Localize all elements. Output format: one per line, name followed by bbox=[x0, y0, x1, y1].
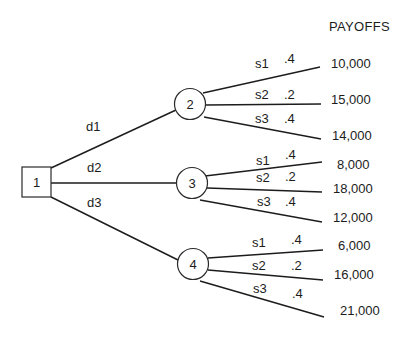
state-label-n3-s2: s2 bbox=[256, 170, 270, 185]
state-label-n4-s2: s2 bbox=[252, 258, 266, 273]
prob-label-n4-s2: .2 bbox=[291, 258, 302, 273]
state-label-n2-s3: s3 bbox=[255, 111, 269, 126]
payoff-n2-s2: 15,000 bbox=[331, 92, 371, 107]
state-label-n4-s1: s1 bbox=[252, 235, 266, 250]
prob-label-n2-s1: .4 bbox=[284, 51, 295, 66]
decision-edge-d3 bbox=[51, 197, 178, 260]
payoff-n4-s1: 6,000 bbox=[338, 238, 371, 253]
state-label-n2-s2: s2 bbox=[255, 87, 269, 102]
state-label-n4-s3: s3 bbox=[253, 281, 267, 296]
state-label-n3-s3: s3 bbox=[257, 194, 271, 209]
decision-label-d3: d3 bbox=[87, 195, 101, 210]
payoff-n3-s3: 12,000 bbox=[333, 210, 373, 225]
branch-edge-n2-s2 bbox=[206, 104, 321, 105]
prob-label-n2-s2: .2 bbox=[284, 87, 295, 102]
chance-node-label: 2 bbox=[186, 97, 193, 112]
payoff-n3-s2: 18,000 bbox=[333, 181, 373, 196]
branch-edge-n4-s1 bbox=[208, 250, 323, 258]
decision-label-d2: d2 bbox=[87, 160, 101, 175]
chance-node-4: 4 bbox=[178, 249, 209, 280]
prob-label-n4-s3: .4 bbox=[292, 286, 303, 301]
chance-node-2: 2 bbox=[175, 89, 206, 120]
prob-label-n2-s3: .4 bbox=[284, 111, 295, 126]
payoff-n4-s3: 21,000 bbox=[340, 303, 380, 318]
chance-node-label: 4 bbox=[189, 257, 196, 272]
prob-label-n3-s1: .4 bbox=[285, 147, 296, 162]
prob-label-n3-s3: .4 bbox=[285, 194, 296, 209]
payoffs-header: PAYOFFS bbox=[329, 19, 390, 34]
chance-node-label: 3 bbox=[188, 176, 195, 191]
prob-label-n4-s1: .4 bbox=[291, 232, 302, 247]
decision-node-label: 1 bbox=[33, 175, 40, 190]
payoff-n2-s1: 10,000 bbox=[331, 56, 371, 71]
decision-edge-d1 bbox=[51, 110, 176, 168]
decision-label-d1: d1 bbox=[86, 119, 100, 134]
chance-node-3: 3 bbox=[177, 168, 208, 199]
state-label-n3-s1: s1 bbox=[256, 153, 270, 168]
decision-node-1: 1 bbox=[22, 167, 51, 197]
decision-tree-diagram: PAYOFFS d1 d2 d3 1 2 3 4 s1 .4 s2 .2 s3 … bbox=[0, 0, 397, 338]
payoff-n4-s2: 16,000 bbox=[334, 267, 374, 282]
branch-edge-n3-s2 bbox=[207, 188, 322, 192]
payoff-n2-s3: 14,000 bbox=[332, 128, 372, 143]
state-label-n2-s1: s1 bbox=[255, 56, 269, 71]
prob-label-n3-s2: .2 bbox=[285, 169, 296, 184]
payoff-n3-s1: 8,000 bbox=[337, 157, 370, 172]
